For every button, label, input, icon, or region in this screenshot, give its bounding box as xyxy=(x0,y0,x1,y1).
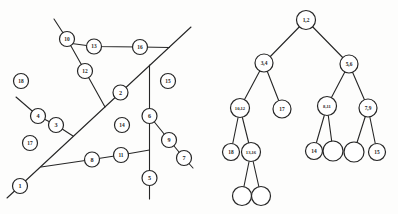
tree-node-label-5-6: 5,6 xyxy=(346,61,353,67)
tree-node-label-8-11: 8,11 xyxy=(323,104,331,109)
graph-node-label-7: 7 xyxy=(182,154,185,161)
graph-node-label-13: 13 xyxy=(91,43,97,49)
graph-node-label-5: 5 xyxy=(148,174,151,181)
tree-node-empty xyxy=(233,187,252,206)
tree-node-label-1-2: 1,2 xyxy=(303,17,310,23)
graph-node-label-15: 15 xyxy=(165,78,171,84)
graph-node-label-17: 17 xyxy=(27,140,33,146)
graph-node-label-12: 12 xyxy=(82,68,88,74)
graph-node-label-2: 2 xyxy=(119,89,122,96)
graph-and-partition-tree-svg: 1234567891011121314151617181,23,45,610,1… xyxy=(0,0,398,214)
graph-node-label-16: 16 xyxy=(137,44,143,50)
graph-node-label-4: 4 xyxy=(36,112,39,119)
cut-line-13-16 xyxy=(68,43,170,48)
tree-node-label-10-12: 10,12 xyxy=(235,106,246,111)
graph-node-label-9: 9 xyxy=(167,136,170,143)
tree-node-label-3-4: 3,4 xyxy=(261,60,268,66)
scanned-figure: 1234567891011121314151617181,23,45,610,1… xyxy=(0,0,398,214)
graph-node-label-11: 11 xyxy=(118,152,123,158)
tree-node-label-7-9: 7,9 xyxy=(365,105,372,111)
tree-node-empty xyxy=(252,187,271,206)
graph-node-label-3: 3 xyxy=(54,121,57,128)
graph-node-label-8: 8 xyxy=(90,156,93,163)
graph-node-label-14: 14 xyxy=(119,122,125,128)
tree-node-label-15: 15 xyxy=(374,149,380,155)
tree-node-label-13-16: 13,16 xyxy=(246,150,257,155)
tree-node-empty xyxy=(344,142,364,162)
tree-node-label-17: 17 xyxy=(279,106,285,112)
tree-node-label-18: 18 xyxy=(228,149,234,155)
tree-node-label-14: 14 xyxy=(311,148,317,154)
graph-node-label-10: 10 xyxy=(64,36,70,42)
graph-node-label-6: 6 xyxy=(148,112,151,119)
tree-node-empty xyxy=(323,141,343,161)
graph-node-label-1: 1 xyxy=(18,182,21,189)
cut-line-10-12 xyxy=(54,19,105,107)
graph-node-label-18: 18 xyxy=(18,78,24,84)
